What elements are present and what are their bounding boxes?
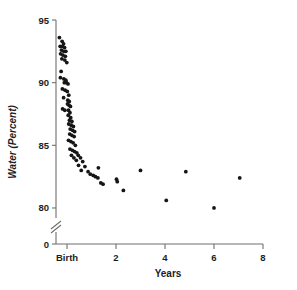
y-tick-label: 90 xyxy=(38,77,49,88)
y-tick-label: 0 xyxy=(44,239,49,250)
data-point xyxy=(65,90,69,94)
data-point xyxy=(59,69,63,73)
data-point xyxy=(115,180,119,184)
chart-canvas: 959085800 Birth2468 Water (Percent) Year… xyxy=(0,0,297,290)
scatter-plot-figure: 959085800 Birth2468 Water (Percent) Year… xyxy=(0,0,297,290)
data-point xyxy=(164,199,168,203)
data-point xyxy=(63,54,67,58)
x-tick-label: 4 xyxy=(162,252,168,263)
y-tick-label: 85 xyxy=(38,140,49,151)
data-point xyxy=(65,61,69,65)
data-point xyxy=(71,125,75,129)
data-point xyxy=(74,158,78,162)
x-axis-title: Years xyxy=(155,268,182,279)
x-tick-label: 6 xyxy=(211,252,216,263)
y-axis: 959085800 xyxy=(38,15,61,250)
data-point xyxy=(81,160,85,164)
data-point xyxy=(79,168,83,172)
x-tick-label: Birth xyxy=(56,252,78,263)
data-point xyxy=(101,182,105,186)
data-point xyxy=(64,49,68,53)
data-point xyxy=(62,96,66,100)
data-point xyxy=(72,135,76,139)
data-point xyxy=(73,130,77,134)
data-point xyxy=(83,165,87,169)
data-point xyxy=(79,156,83,160)
data-point xyxy=(212,206,216,210)
data-point xyxy=(238,176,242,180)
data-point xyxy=(66,82,70,86)
data-point xyxy=(70,120,74,124)
y-tick-label: 95 xyxy=(38,15,49,26)
data-point xyxy=(59,76,63,80)
data-point xyxy=(67,93,71,97)
data-point xyxy=(121,189,125,193)
data-point xyxy=(96,176,100,180)
x-axis: Birth2468 xyxy=(56,244,266,263)
data-point xyxy=(69,105,73,109)
data-point xyxy=(73,143,77,147)
data-point xyxy=(139,168,143,172)
y-axis-title: Water (Percent) xyxy=(7,104,18,178)
y-tick-label: 80 xyxy=(38,202,49,213)
x-tick-group: Birth2468 xyxy=(56,244,266,263)
y-tick-group: 959085800 xyxy=(38,15,56,250)
data-point-group xyxy=(58,36,242,210)
y-axis-break-icon xyxy=(51,221,61,233)
data-point xyxy=(63,46,67,50)
x-tick-label: 2 xyxy=(113,252,118,263)
data-point xyxy=(58,36,62,40)
data-point xyxy=(77,163,81,167)
data-point xyxy=(184,170,188,174)
data-point xyxy=(63,108,67,112)
data-point xyxy=(96,166,100,170)
x-tick-label: 8 xyxy=(260,252,265,263)
